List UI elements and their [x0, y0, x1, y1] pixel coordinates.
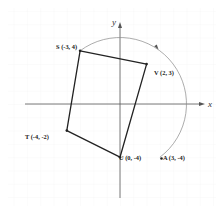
coordinate-diagram: x y S (-3, 4) V (2, 3) U (0, -4) T (-4, …: [0, 0, 224, 214]
label-A: A (3, -4): [163, 154, 185, 162]
label-V: V (2, 3): [154, 69, 174, 77]
label-S: S (-3, 4): [56, 43, 77, 51]
label-U: U (0, -4): [119, 154, 141, 162]
x-axis-label: x: [207, 99, 212, 109]
point-T: [66, 129, 69, 132]
y-axis-label: y: [111, 17, 116, 27]
label-T: T (-4, -2): [25, 133, 49, 141]
point-V: [145, 63, 148, 66]
point-S: [79, 50, 82, 53]
